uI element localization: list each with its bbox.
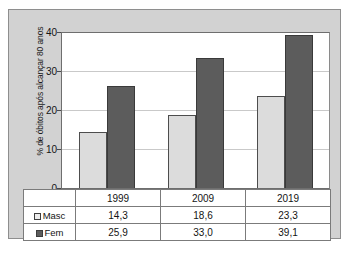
y-tick-label-30: 30 (39, 67, 57, 77)
table-header-2009: 2009 (161, 190, 246, 207)
legend-swatch-fem-icon (36, 230, 43, 237)
table-cell-fem-2019: 39,1 (246, 224, 331, 241)
bar-group-1999 (62, 33, 151, 188)
chart-data-table: 1999 2009 2019 Masc 14,3 18,6 23,3 Fem 2… (23, 189, 331, 241)
bar-fem-1999 (107, 86, 135, 188)
plot-area (61, 32, 330, 189)
y-axis-tick-labels: 40 30 20 10 0 (37, 32, 57, 192)
figure-frame: % de óbitos após alcançar 80 anos 40 30 … (8, 9, 341, 239)
y-tick-label-40: 40 (39, 28, 57, 38)
table-header-1999: 1999 (76, 190, 161, 207)
legend-item-masc: Masc (24, 207, 76, 224)
legend-label-fem: Fem (45, 227, 64, 238)
table-cell-masc-1999: 14,3 (76, 207, 161, 224)
bar-masc-2019 (257, 96, 285, 188)
bar-group-2019 (240, 33, 329, 188)
table-cell-fem-2009: 33,0 (161, 224, 246, 241)
y-tick-label-10: 10 (39, 145, 57, 155)
bars-layer (62, 33, 329, 188)
legend-item-fem: Fem (24, 224, 76, 241)
bar-fem-2019 (285, 35, 313, 188)
table-row-masc: Masc 14,3 18,6 23,3 (24, 207, 331, 224)
bar-group-2009 (151, 33, 240, 188)
bar-fem-2009 (196, 58, 224, 188)
table-cell-masc-2009: 18,6 (161, 207, 246, 224)
table-cell-fem-1999: 25,9 (76, 224, 161, 241)
table-header-2019: 2019 (246, 190, 331, 207)
legend-swatch-masc-icon (34, 213, 41, 220)
table-corner-cell (24, 190, 76, 207)
legend-label-masc: Masc (43, 210, 66, 221)
y-tick-label-20: 20 (39, 106, 57, 116)
bar-masc-2009 (168, 115, 196, 188)
table-row-categories: 1999 2009 2019 (24, 190, 331, 207)
table-cell-masc-2019: 23,3 (246, 207, 331, 224)
bar-masc-1999 (79, 132, 107, 188)
table-row-fem: Fem 25,9 33,0 39,1 (24, 224, 331, 241)
